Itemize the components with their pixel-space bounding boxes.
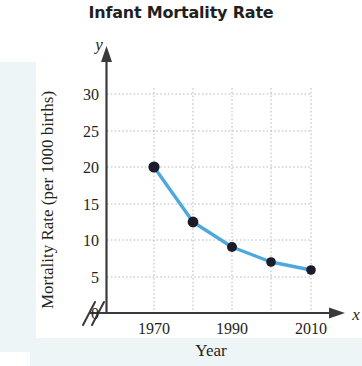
y-tick-0: 0 [91,305,99,322]
chart-figure: Infant Mortality Rate Mortality Rate (pe… [0,0,362,366]
data-point [266,257,276,267]
x-tick-2010: 2010 [295,320,327,337]
x-tick-labels: 1970 1990 2010 [138,320,327,337]
x-tick-1990: 1990 [216,320,248,337]
data-point [306,265,316,275]
y-axis-variable-label: y [93,35,103,54]
y-axis [101,46,112,313]
data-point [227,242,237,252]
y-tick-25: 25 [83,123,99,140]
y-tick-5: 5 [91,269,99,286]
y-tick-30: 30 [83,86,99,103]
x-axis [90,308,345,319]
data-point [148,161,159,172]
horizontal-gridlines [107,94,312,277]
plot-area: 30 25 20 15 10 5 0 1970 1990 2010 y x [0,0,362,366]
x-axis-variable-label: x [351,305,360,324]
y-tick-20: 20 [83,159,99,176]
x-tick-1970: 1970 [138,320,170,337]
y-tick-10: 10 [83,232,99,249]
y-tick-15: 15 [83,196,99,213]
data-point [188,217,199,228]
y-tick-labels: 30 25 20 15 10 5 0 [83,86,99,322]
